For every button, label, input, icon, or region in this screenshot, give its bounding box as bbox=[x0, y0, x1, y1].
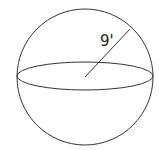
sphere-diagram: 9' bbox=[0, 0, 159, 150]
radius-label: 9' bbox=[100, 32, 114, 50]
equator-ellipse bbox=[17, 62, 153, 90]
